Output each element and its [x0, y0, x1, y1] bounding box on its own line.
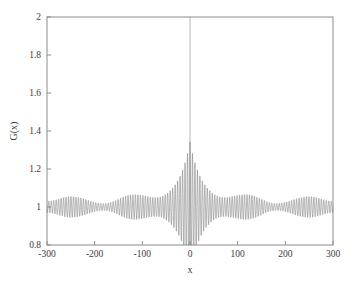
- chart-figure: 0.811.21.41.61.82 -300-200-1000100200300…: [0, 0, 359, 284]
- y-tick-label: 1.2: [29, 164, 41, 174]
- y-tick-label: 1.8: [29, 50, 41, 60]
- x-tick-label: 300: [326, 249, 341, 259]
- chart-canvas: 0.811.21.41.61.82 -300-200-1000100200300…: [0, 0, 359, 284]
- y-axis-title: G(x): [8, 122, 20, 141]
- x-axis-title: x: [188, 264, 193, 275]
- y-tick-label: 2: [36, 12, 41, 22]
- x-tick-label: 0: [188, 249, 193, 259]
- y-tick-label: 1.6: [29, 88, 41, 98]
- x-tick-label: 200: [278, 249, 293, 259]
- x-tick-label: -300: [38, 249, 56, 259]
- x-tick-label: -100: [134, 249, 152, 259]
- x-tick-label: 100: [231, 249, 246, 259]
- y-tick-label: 1.4: [29, 126, 41, 136]
- x-tick-label: -200: [86, 249, 104, 259]
- y-tick-label: 1: [36, 202, 41, 212]
